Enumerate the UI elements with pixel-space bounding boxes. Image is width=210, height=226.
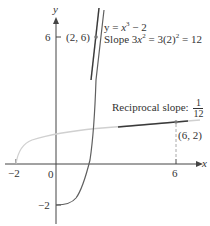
fraction-denominator: 12 [193, 109, 203, 119]
x-tick-label-neg2: −2 [8, 168, 20, 179]
y-tick-label-6: 6 [45, 32, 51, 43]
y-tick-label-neg2: −-22 [38, 200, 50, 211]
point-6-2 [174, 120, 178, 124]
slope-label: Slope 3x2 = 3(2)2 = 12 [104, 33, 202, 45]
origin-label: 0 [48, 169, 54, 180]
slope-result: = 12 [179, 33, 202, 45]
y-axis-label: y [53, 4, 58, 15]
y-axis-arrow-icon [53, 17, 59, 24]
inverse-curve [16, 120, 200, 164]
reciprocal-slope-label: Reciprocal slope: 112 [112, 98, 203, 119]
slope-prefix: Slope 3 [104, 33, 137, 45]
reciprocal-fraction: 112 [193, 98, 203, 119]
point-2-6 [94, 35, 98, 39]
point-label-6-2: (6, 2) [178, 130, 202, 141]
point-label-2-6: (2, 6) [66, 32, 90, 43]
x-tick-label-6: 6 [172, 168, 178, 179]
equation-label: y = x3 − 2 [104, 21, 147, 33]
eq-prefix: y = [104, 21, 121, 33]
slope-mid: = 3(2) [146, 33, 176, 45]
eq-suffix: − 2 [130, 21, 147, 33]
x-axis-label: x [202, 158, 207, 169]
reciprocal-text: Reciprocal slope: [112, 101, 191, 113]
